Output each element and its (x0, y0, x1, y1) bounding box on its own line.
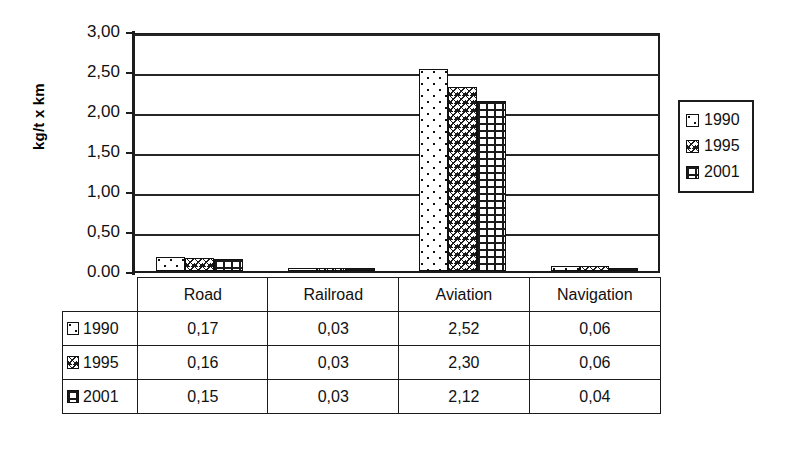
bar-group-aviation (397, 35, 529, 271)
table-cell-road-2001: 0,15 (138, 380, 268, 414)
pattern-brick-swatch (67, 390, 79, 403)
table-row-label: 2001 (83, 388, 119, 406)
table-cell-railroad-1995: 0,03 (268, 346, 399, 380)
table-cell-aviation-1995: 2,30 (399, 346, 530, 380)
table-cell-railroad-1990: 0,03 (268, 312, 399, 346)
y-axis-tick-label: 2,50 (54, 62, 120, 82)
bar-railroad-2001 (346, 268, 375, 272)
bar-group-railroad (266, 35, 398, 271)
y-axis-tick-label: 2,00 (54, 102, 120, 122)
legend-item-1990[interactable]: 1990 (686, 109, 747, 131)
y-axis-tick-label: 0,50 (54, 222, 120, 242)
bar-aviation-1995 (448, 87, 477, 271)
y-axis-tick-mark (126, 152, 135, 154)
pattern-brick-swatch (686, 166, 699, 179)
table-column-header-aviation: Aviation (399, 278, 530, 312)
table-row: 19950,160,032,300,06 (63, 346, 661, 380)
bar-navigation-1995 (580, 266, 609, 271)
table-row-header-2001: 2001 (63, 380, 138, 414)
table-cell-navigation-2001: 0,04 (529, 380, 660, 414)
pattern-dots-swatch (67, 322, 79, 335)
table-cell-railroad-2001: 0,03 (268, 380, 399, 414)
table-header-row: RoadRailroadAviationNavigation (63, 278, 661, 312)
bar-chart-figure: kg/t x km 3,002,502,001,501,000,500,00 1… (0, 0, 785, 450)
legend-item-2001[interactable]: 2001 (686, 161, 747, 183)
y-axis-tick-mark (126, 272, 135, 274)
bar-railroad-1995 (317, 268, 346, 272)
bar-road-2001 (214, 259, 243, 271)
table-column-header-navigation: Navigation (529, 278, 660, 312)
data-table-body: 19900,170,032,520,0619950,160,032,300,06… (63, 312, 661, 414)
bar-aviation-1990 (419, 69, 448, 271)
y-axis-tick-mark (126, 32, 135, 34)
bar-road-1995 (185, 258, 214, 271)
bar-railroad-1990 (288, 268, 317, 272)
pattern-zigzag-swatch (686, 140, 699, 153)
table-row-header-1995: 1995 (63, 346, 138, 380)
table-cell-aviation-1990: 2,52 (399, 312, 530, 346)
pattern-zigzag-swatch (67, 356, 79, 369)
chart-legend: 199019952001 (678, 100, 754, 193)
table-cell-navigation-1990: 0,06 (529, 312, 660, 346)
bar-aviation-2001 (477, 101, 506, 271)
table-row-header-1990: 1990 (63, 312, 138, 346)
bar-navigation-2001 (609, 268, 638, 272)
y-axis-tick-mark (126, 72, 135, 74)
bar-group-navigation (529, 35, 661, 271)
table-row: 20010,150,032,120,04 (63, 380, 661, 414)
bar-road-1990 (156, 257, 185, 271)
table-corner-cell (63, 278, 138, 312)
plot-area (134, 33, 660, 273)
legend-item-1995[interactable]: 1995 (686, 135, 747, 157)
table-cell-road-1990: 0,17 (138, 312, 268, 346)
bar-navigation-1990 (551, 266, 580, 271)
y-axis-tick-mark (126, 192, 135, 194)
pattern-dots-swatch (686, 114, 699, 127)
y-axis-tick-mark (126, 232, 135, 234)
legend-item-label: 1990 (704, 111, 740, 129)
table-column-header-road: Road (138, 278, 268, 312)
table-cell-road-1995: 0,16 (138, 346, 268, 380)
y-axis-tick-label: 1,00 (54, 182, 120, 202)
table-row-label: 1990 (83, 320, 119, 338)
y-axis-title: kg/t x km (30, 57, 47, 177)
bar-group-road (134, 35, 266, 271)
table-cell-navigation-1995: 0,06 (529, 346, 660, 380)
table-cell-aviation-2001: 2,12 (399, 380, 530, 414)
table-column-header-railroad: Railroad (268, 278, 399, 312)
table-row-label: 1995 (83, 354, 119, 372)
legend-item-label: 2001 (704, 163, 740, 181)
data-table: RoadRailroadAviationNavigation 19900,170… (62, 277, 661, 414)
table-row: 19900,170,032,520,06 (63, 312, 661, 346)
y-axis-tick-label: 3,00 (54, 22, 120, 42)
y-axis-tick-label: 1,50 (54, 142, 120, 162)
y-axis-tick-mark (126, 112, 135, 114)
data-table-header: RoadRailroadAviationNavigation (63, 278, 661, 312)
legend-item-label: 1995 (704, 137, 740, 155)
